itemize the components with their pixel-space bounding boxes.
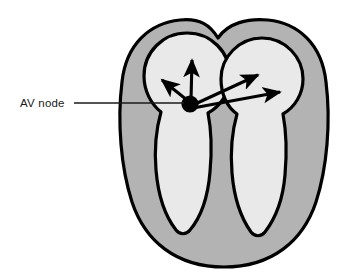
diagram-canvas: AV node	[0, 0, 347, 280]
heart-conduction-diagram: AV node	[0, 0, 347, 280]
av-node-label: AV node	[20, 97, 65, 109]
av-node-marker	[181, 95, 198, 112]
conduction-arrow-up	[191, 60, 192, 100]
